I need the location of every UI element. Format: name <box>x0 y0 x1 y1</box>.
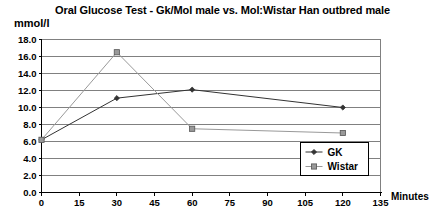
x-axis-tick-label: 0 <box>39 197 44 208</box>
y-axis-tick-label: 14.0 <box>18 68 37 79</box>
x-axis-tick-label: 135 <box>373 197 390 208</box>
x-axis-tick-labels: 0153045607590105120135 <box>39 193 389 208</box>
x-axis-tick-label: 75 <box>225 197 236 208</box>
x-axis-tick-label: 60 <box>187 197 198 208</box>
data-series <box>39 50 346 143</box>
x-axis-tick-label: 30 <box>112 197 123 208</box>
x-axis-tick-label: 90 <box>262 197 273 208</box>
y-axis-tick-label: 0.0 <box>23 187 36 198</box>
data-point-marker <box>340 105 345 110</box>
legend-label-wistar: Wistar <box>328 161 359 172</box>
y-axis-tick-label: 18.0 <box>18 34 37 45</box>
chart-legend: GKWistar <box>301 143 369 176</box>
x-axis-tick-label: 120 <box>335 197 351 208</box>
data-point-marker <box>340 130 345 135</box>
y-axis-tick-labels: 0.02.04.06.08.010.012.014.016.018.0 <box>18 34 42 198</box>
chart-container: Oral Glucose Test - Gk/Mol male vs. Mol:… <box>0 0 440 212</box>
data-point-marker <box>190 126 195 131</box>
y-axis-tick-label: 8.0 <box>23 119 36 130</box>
data-point-marker <box>311 164 316 169</box>
data-point-marker <box>114 50 119 55</box>
legend-label-gk: GK <box>328 147 344 158</box>
y-axis-tick-label: 12.0 <box>18 85 37 96</box>
data-point-marker <box>190 87 195 92</box>
y-axis-tick-label: 10.0 <box>18 102 37 113</box>
plot-area: 0.02.04.06.08.010.012.014.016.018.0 0153… <box>0 0 440 212</box>
data-point-marker <box>39 137 44 142</box>
y-axis-tick-label: 6.0 <box>23 136 36 147</box>
series-line-gk <box>42 90 343 140</box>
x-axis-tick-label: 45 <box>149 197 160 208</box>
y-axis-tick-label: 16.0 <box>18 51 37 62</box>
y-axis-tick-label: 2.0 <box>23 170 36 181</box>
x-axis-tick-label: 15 <box>74 197 85 208</box>
x-axis-tick-label: 105 <box>297 197 314 208</box>
y-axis-tick-label: 4.0 <box>23 153 36 164</box>
data-point-marker <box>114 96 119 101</box>
